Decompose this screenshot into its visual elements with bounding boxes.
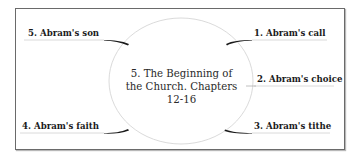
item-abrams-choice: 2. Abram's choice bbox=[257, 74, 342, 84]
item-abrams-faith: 4. Abram's faith bbox=[22, 121, 99, 131]
item-abrams-son: 5. Abram's son bbox=[28, 28, 99, 38]
connector-abrams-faith bbox=[104, 129, 129, 134]
central-topic: 5. The Beginning of the Church. Chapters… bbox=[115, 67, 248, 106]
central-topic-line-2: the Church. Chapters bbox=[115, 80, 248, 93]
connector-abrams-tithe bbox=[225, 130, 253, 134]
central-topic-line-1: 5. The Beginning of bbox=[115, 67, 248, 80]
item-abrams-call: 1. Abram's call bbox=[254, 28, 326, 38]
central-topic-line-3: 12-16 bbox=[115, 93, 248, 106]
item-abrams-tithe: 3. Abram's tithe bbox=[254, 121, 331, 131]
